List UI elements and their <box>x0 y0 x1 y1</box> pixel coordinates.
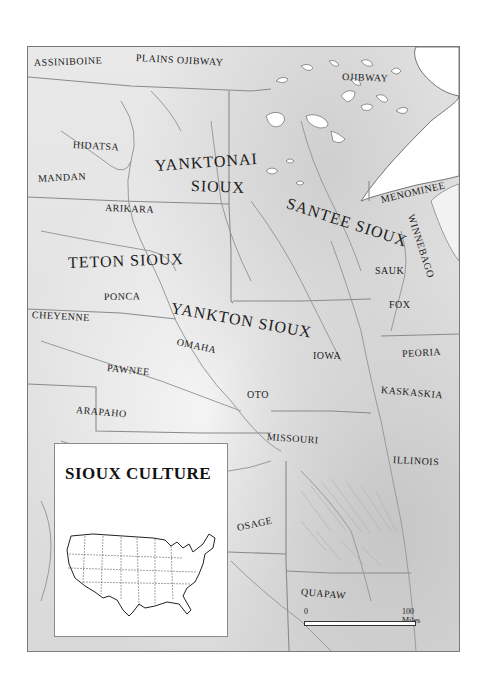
label-fox: FOX <box>389 299 411 310</box>
label-arikara: ARIKARA <box>105 202 154 215</box>
map-frame: ASSINIBOINEPLAINS OJIBWAYOJIBWAYHIDATSAM… <box>27 46 460 652</box>
ozark-relief <box>301 479 396 566</box>
label-hidatsa: HIDATSA <box>73 139 120 152</box>
lake-michigan-top <box>431 184 459 261</box>
usa-outline-icon <box>63 524 221 619</box>
label-peoria: PEORIA <box>402 346 442 359</box>
label-iowa: IOWA <box>313 350 341 361</box>
label-illinois: ILLINOIS <box>393 454 440 467</box>
label-ponca: PONCA <box>104 290 141 302</box>
lake-superior-north <box>415 47 459 96</box>
label-ojibway: OJIBWAY <box>342 71 389 84</box>
inset-legend: SIOUX CULTURE <box>54 443 228 637</box>
scale-start-label: 0 <box>304 607 308 616</box>
scale-bar-line <box>304 621 416 626</box>
label-oto: OTO <box>247 389 269 400</box>
map-title: SIOUX CULTURE <box>65 464 211 484</box>
label-yanktonai-sioux: SIOUX <box>191 177 245 197</box>
label-sauk: SAUK <box>375 265 404 276</box>
